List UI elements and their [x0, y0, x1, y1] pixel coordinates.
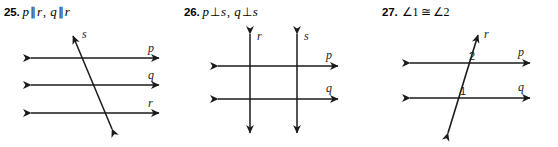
line-label-s: s [82, 27, 87, 41]
line-label-q: q [148, 68, 154, 82]
line-label-r: r [257, 29, 262, 43]
line-label-q: q [326, 81, 332, 95]
line-label-r: r [484, 27, 489, 41]
line-label-p: p [517, 45, 524, 59]
angle-label-2: 2 [469, 50, 475, 62]
line-label-p: p [325, 48, 332, 62]
line-label-r: r [148, 96, 153, 110]
problem-27-figure: r p q 2 1 [360, 0, 558, 147]
line-label-p: p [147, 41, 154, 55]
problem-26-figure: r s p q [180, 0, 360, 147]
problem-26: 26. p⊥s, q⊥s r s p q [180, 0, 360, 147]
angle-label-1: 1 [460, 85, 466, 97]
problem-25: 25. p∥r, q∥r s p q r [0, 0, 180, 147]
problem-27: 27. ∠1≅∠2 r p q 2 1 [360, 0, 558, 147]
line-label-s: s [304, 29, 309, 43]
line-label-q: q [518, 80, 524, 94]
line-s [73, 36, 112, 129]
problem-25-figure: s p q r [0, 0, 180, 147]
